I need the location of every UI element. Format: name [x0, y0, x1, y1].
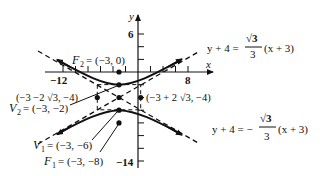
vertex-v2-point [116, 82, 121, 87]
svg-text:√3: √3 [260, 112, 272, 124]
diagram-canvas: y x 6 −14 −12 8 F 2 = (−3, 0) (−3 −2 √3,… [0, 0, 321, 176]
svg-text:= (−3, 0): = (−3, 0) [86, 54, 125, 67]
x-axis-label: x [205, 58, 211, 70]
svg-text:1: 1 [41, 145, 45, 154]
svg-text:F: F [71, 53, 80, 67]
y-axis-label: y [128, 10, 134, 22]
focus-f2-point [116, 69, 121, 74]
f1-label: F 1 = (−3, −8) [43, 154, 104, 170]
svg-text:2: 2 [17, 108, 21, 117]
asymptote-upper-equation: y + 4 = √3 3 (x + 3) [207, 32, 294, 60]
svg-text:y + 4 = −: y + 4 = − [212, 123, 253, 135]
v1-label: V 1 = (−3, −6) [33, 138, 93, 154]
x-tick-label-neg12: −12 [50, 74, 68, 86]
svg-text:√3: √3 [246, 32, 258, 44]
svg-text:3: 3 [250, 48, 256, 60]
svg-text:y + 4 =: y + 4 = [207, 42, 239, 54]
f2-label: F 2 = (−3, 0) [71, 53, 125, 69]
asymptote-lower-equation: y + 4 = − √3 3 (x + 3) [212, 112, 308, 142]
svg-text:= (−3, −8): = (−3, −8) [58, 155, 104, 168]
right-box-point-label: (−3 + 2 √3, −4) [146, 92, 211, 104]
lower-branch-right-arrow [168, 127, 182, 135]
focus-f1-point [116, 120, 121, 125]
v2-label: V 2 = (−3, −2) [9, 101, 69, 117]
center-point [116, 95, 121, 100]
f1-leader [100, 125, 118, 152]
svg-text:3: 3 [264, 130, 270, 142]
x-tick-label-8: 8 [185, 74, 191, 86]
hyperbola-diagram: y x 6 −14 −12 8 F 2 = (−3, 0) (−3 −2 √3,… [0, 0, 321, 176]
vertex-v1-point [116, 108, 121, 113]
svg-text:F: F [43, 154, 52, 168]
y-tick-label-neg14: −14 [116, 156, 134, 168]
svg-text:(x + 3): (x + 3) [278, 123, 308, 136]
right-box-point [138, 95, 143, 100]
svg-text:(x + 3): (x + 3) [264, 42, 294, 55]
svg-text:2: 2 [80, 60, 84, 69]
y-tick-label-6: 6 [128, 28, 134, 40]
svg-text:= (−3, −6): = (−3, −6) [47, 139, 93, 152]
svg-text:1: 1 [52, 161, 56, 170]
left-box-point [95, 95, 100, 100]
svg-text:= (−3, −2): = (−3, −2) [23, 102, 69, 115]
lower-branch-left-arrow [57, 127, 70, 135]
